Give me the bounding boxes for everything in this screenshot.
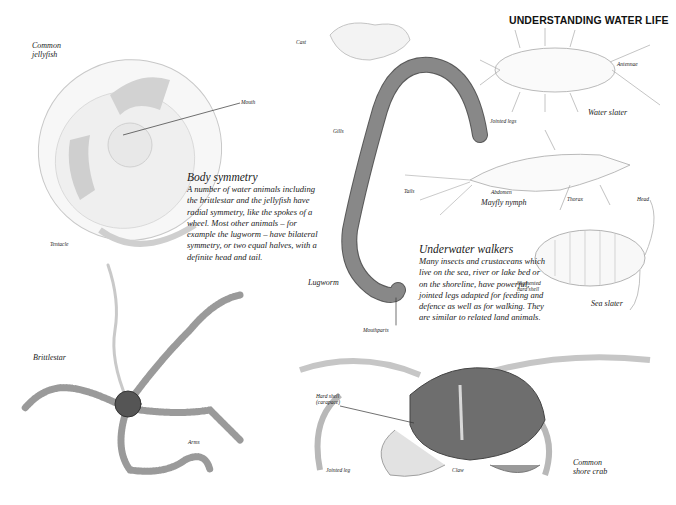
lugworm-mouthparts-label: Mouthparts [363,327,389,333]
sea-slater-illustration [535,200,654,310]
jellyfish-tentacle-label: Tentacle [50,241,68,247]
mayfly-tails-label: Tails [404,188,415,194]
body-symmetry-section: Body symmetry A number of water animals … [187,171,322,263]
lugworm-gills-label: Gills [333,128,344,134]
body-symmetry-heading: Body symmetry [187,171,322,184]
illustrations-layer [0,0,676,505]
crab-claw-label: Claw [452,467,464,473]
brittlestar-arms-label: Arms [188,439,200,445]
mayfly-abdomen-label: Abdomen [491,189,512,195]
crab-hard-shell-line2: (carapace) [316,399,340,405]
underwater-walkers-heading: Underwater walkers [419,243,549,256]
crab-hard-shell-label: Hard shell (carapace) [316,393,340,405]
sea-slater-name: Sea slater [591,300,623,309]
sea-slater-segmented-label: Segmented hard shell [517,280,541,292]
jellyfish-name: Common jellyfish [32,42,61,60]
lugworm-name: Lugworm [308,279,339,288]
jellyfish-mouth-label: Mouth [241,99,255,105]
mayfly-head-label: Head [637,196,649,202]
page-title: UNDERSTANDING WATER LIFE [509,14,669,26]
water-slater-jointed-legs-label: Jointed legs [490,118,516,124]
lugworm-cast-label: Cast [296,39,306,45]
mayfly-thorax-label: Thorax [567,196,583,202]
shore-crab-name-line2: shore crab [573,468,607,477]
brittlestar-illustration [25,265,240,471]
crab-jointed-leg-label: Jointed leg [326,467,350,473]
jellyfish-name-line2: jellyfish [32,51,61,60]
mayfly-nymph-name: Mayfly nymph [481,199,527,208]
water-slater-antennae-label: Antennae [617,61,638,67]
body-symmetry-text: A number of water animals including the … [187,184,322,263]
sea-slater-segmented-line2: hard shell [517,286,541,292]
water-slater-name: Water slater [588,109,627,118]
brittlestar-name: Brittlestar [33,354,66,363]
shore-crab-name: Common shore crab [573,459,607,477]
lugworm-cast-illustration [330,23,410,60]
water-slater-illustration [480,28,660,112]
